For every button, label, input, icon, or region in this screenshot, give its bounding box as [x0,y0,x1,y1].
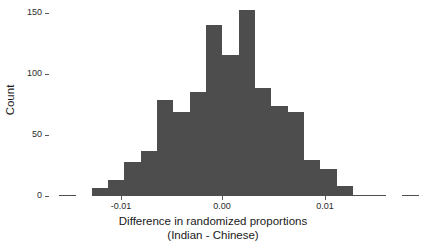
histogram-bar [206,25,222,196]
histogram-bar [255,88,271,196]
histogram-bar [190,92,206,196]
histogram-bar [304,160,320,196]
histogram-bar [353,195,369,197]
histogram-bar [337,186,353,196]
histogram-bar [402,195,419,197]
x-tick-label-2: 0.01 [305,201,345,211]
histogram-bar [239,10,255,196]
plot-area [0,0,426,197]
x-tick-mark-0 [121,196,122,200]
histogram-bar [173,112,190,196]
histogram-bar [369,195,386,197]
x-tick-label-1: 0.00 [202,201,242,211]
histogram-bar [92,188,108,196]
histogram-bar [141,151,157,196]
histogram-bar [271,106,288,196]
histogram-bar [320,169,337,196]
histogram-bar [108,180,124,196]
x-axis-subtitle: (Indian - Chinese) [0,228,426,242]
histogram-bar [222,55,239,196]
x-axis-title: Difference in randomized proportions [0,214,426,228]
x-tick-mark-1 [222,196,223,200]
histogram-bar [157,100,173,196]
x-tick-label-0: -0.01 [101,201,141,211]
histogram-bar [59,195,76,197]
histogram-figure: Count 050100150 -0.010.000.01 Difference… [0,0,426,248]
histogram-bar [124,162,141,196]
x-tick-mark-2 [325,196,326,200]
histogram-bar [288,112,304,196]
